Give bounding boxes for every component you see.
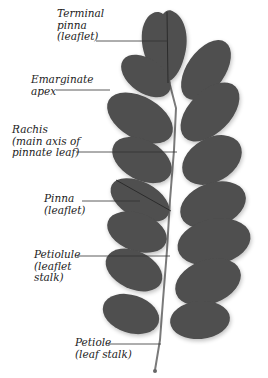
label-petiolule: Petiolule (leaflet stalk) <box>34 249 80 284</box>
leaflets <box>98 10 255 341</box>
label-rachis: Rachis (main axis of pinnate leaf) <box>12 124 80 159</box>
petiole-base <box>153 369 157 373</box>
pinnate-leaf-diagram: Terminal pinna (leaflet) Emarginate apex… <box>0 0 268 378</box>
label-terminal-pinna: Terminal pinna (leaflet) <box>57 8 104 43</box>
label-pinna: Pinna (leaflet) <box>44 193 85 216</box>
label-petiole: Petiole (leaf stalk) <box>75 337 132 360</box>
label-emarginate-apex: Emarginate apex <box>31 74 93 97</box>
leaf-illustration <box>0 0 268 378</box>
leaflet-right-7 <box>168 298 231 341</box>
leaflet-left-7 <box>98 287 165 341</box>
